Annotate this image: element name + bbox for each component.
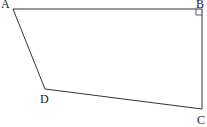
vertex-label-a: A [1,0,10,11]
quadrilateral-diagram: A B C D [0,0,207,127]
vertex-label-c: C [197,113,205,127]
vertex-label-b: B [196,0,204,11]
vertex-label-d: D [40,92,49,106]
